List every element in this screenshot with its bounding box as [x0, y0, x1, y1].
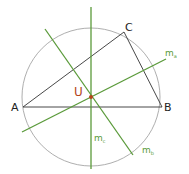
label-mc: mc: [94, 133, 106, 144]
center-point-u: [89, 95, 93, 99]
label-c: C: [125, 21, 133, 34]
label-mb: mb: [142, 145, 154, 156]
label-u: U: [74, 85, 83, 99]
label-a: A: [11, 101, 19, 114]
label-ma: ma: [165, 48, 177, 59]
label-b: B: [164, 101, 172, 114]
side-bc: [124, 32, 162, 107]
circumcircle-diagram: A B C U ma mb mc: [0, 0, 189, 174]
bisector-mb: [45, 29, 133, 155]
bisector-ma: [22, 59, 166, 132]
